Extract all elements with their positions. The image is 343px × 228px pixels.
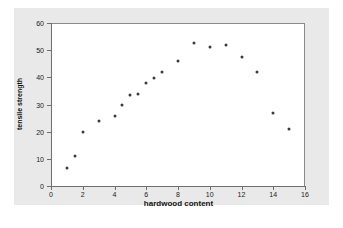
y-tick-label: 50 bbox=[36, 47, 44, 54]
x-tick-label: 16 bbox=[301, 191, 309, 198]
y-tick-label: 20 bbox=[36, 128, 44, 135]
y-tick-mark bbox=[47, 77, 51, 78]
data-point bbox=[256, 70, 259, 73]
data-point bbox=[288, 127, 291, 130]
data-point bbox=[73, 155, 76, 158]
y-tick-mark bbox=[47, 186, 51, 187]
x-tick-mark bbox=[242, 186, 243, 190]
data-point bbox=[153, 77, 156, 80]
x-tick-mark bbox=[51, 186, 52, 190]
x-tick-label: 14 bbox=[269, 191, 277, 198]
data-point bbox=[137, 93, 140, 96]
data-point bbox=[177, 60, 180, 63]
x-tick-mark bbox=[178, 186, 179, 190]
data-point bbox=[192, 41, 195, 44]
y-tick-label: 40 bbox=[36, 74, 44, 81]
data-point bbox=[224, 43, 227, 46]
x-tick-mark bbox=[83, 186, 84, 190]
x-tick-mark bbox=[146, 186, 147, 190]
y-tick-label: 0 bbox=[40, 183, 44, 190]
data-point bbox=[121, 104, 124, 107]
x-tick-label: 10 bbox=[206, 191, 214, 198]
y-tick-label: 10 bbox=[36, 155, 44, 162]
y-tick-label: 30 bbox=[36, 101, 44, 108]
y-tick-mark bbox=[47, 159, 51, 160]
x-tick-label: 8 bbox=[176, 191, 180, 198]
y-tick-label: 60 bbox=[36, 20, 44, 27]
y-tick-mark bbox=[47, 23, 51, 24]
x-tick-label: 12 bbox=[238, 191, 246, 198]
data-point bbox=[145, 81, 148, 84]
data-point bbox=[161, 71, 164, 74]
data-point bbox=[81, 131, 84, 134]
x-tick-label: 2 bbox=[81, 191, 85, 198]
data-point bbox=[208, 45, 211, 48]
x-axis-title: hardwood content bbox=[51, 199, 306, 208]
data-point bbox=[240, 55, 243, 58]
y-tick-mark bbox=[47, 105, 51, 106]
x-tick-mark bbox=[305, 186, 306, 190]
y-axis-line bbox=[51, 23, 52, 187]
data-point bbox=[65, 167, 68, 170]
data-point bbox=[97, 120, 100, 123]
plot-area bbox=[51, 23, 305, 186]
scatter-plot-figure: hardwood content tensile strength 024681… bbox=[0, 0, 343, 228]
x-tick-label: 6 bbox=[144, 191, 148, 198]
data-point bbox=[113, 114, 116, 117]
data-point bbox=[272, 111, 275, 114]
x-tick-mark bbox=[273, 186, 274, 190]
x-tick-mark bbox=[115, 186, 116, 190]
y-axis-title: tensile strength bbox=[16, 78, 23, 130]
x-tick-mark bbox=[210, 186, 211, 190]
data-point bbox=[129, 93, 132, 96]
y-tick-mark bbox=[47, 132, 51, 133]
x-tick-label: 0 bbox=[49, 191, 53, 198]
y-tick-mark bbox=[47, 50, 51, 51]
x-tick-label: 4 bbox=[113, 191, 117, 198]
